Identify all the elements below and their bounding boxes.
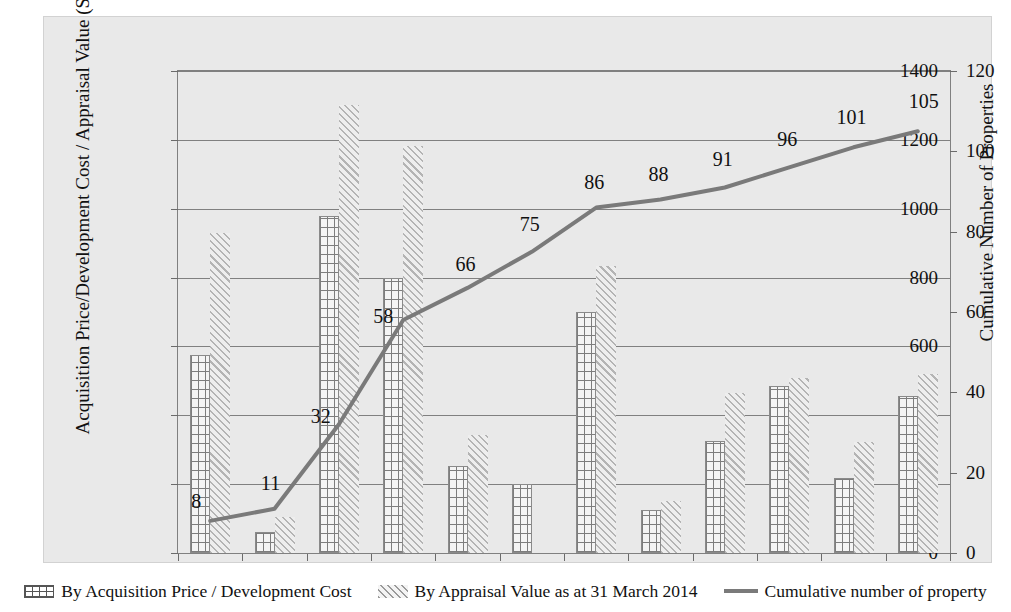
y-axis-tickmark-left [171,278,178,279]
x-axis-tickmark [821,554,822,561]
line-point-label: 96 [777,129,797,149]
y-axis-tick-label-right: 80 [966,222,985,241]
bar-appraisal-value [210,233,230,553]
y-axis-title-left: Acquisition Price/Development Cost / App… [73,5,92,435]
y-axis-tick-label-left: 1000 [848,199,938,218]
x-axis-tickmark [500,554,501,561]
y-axis-tickmark-right [950,232,957,233]
y-axis-tickmark-left [171,71,178,72]
x-axis-tickmark [886,554,887,561]
bar-appraisal-value [789,378,809,553]
y-axis-tick-label-left: 600 [848,336,938,355]
y-axis-tick-label-right: 120 [966,61,995,80]
line-point-label: 105 [909,91,939,111]
y-axis-tick-label-right: 100 [966,141,995,160]
x-axis-tickmark [950,554,951,561]
diagonal-hatch-swatch [378,585,408,598]
line-point-label: 8 [191,491,201,511]
plot-area: 0200400600800100012001400 02040608010012… [177,70,951,554]
line-point-label: 101 [837,107,867,127]
legend-item[interactable]: By Acquisition Price / Development Cost [24,581,351,602]
gridline [178,71,950,72]
x-axis-tickmark [564,554,565,561]
y-axis-tick-label-right: 0 [966,543,976,562]
y-axis-tickmark-left [171,140,178,141]
y-axis-tickmark-left [171,415,178,416]
bar-appraisal-value [918,374,938,553]
chart-screenshot: Acquisition Price/Development Cost / App… [0,0,1011,612]
x-axis-tickmark [435,554,436,561]
line-point-label: 32 [311,406,331,426]
y-axis-tick-label-right: 60 [966,302,985,321]
line-point-label: 66 [456,254,476,274]
bar-appraisal-value [725,393,745,553]
bar-acquisition-price [512,484,532,553]
bar-acquisition-price [834,478,854,553]
legend-item-label: By Appraisal Value as at 31 March 2014 [415,581,698,602]
grid-pattern-swatch [24,585,54,598]
y-axis-tick-label-right: 20 [966,463,985,482]
bar-appraisal-value [275,517,295,553]
bar-acquisition-price [448,466,468,553]
x-axis-tickmark [371,554,372,561]
y-axis-tickmark-right [950,312,957,313]
y-axis-tickmark-left [171,346,178,347]
bar-appraisal-value [854,442,874,553]
line-point-label: 88 [649,164,669,184]
x-axis-tickmark [178,554,179,561]
bar-appraisal-value [661,501,681,553]
legend-panel: By Acquisition Price / Development CostB… [0,570,1011,612]
bar-appraisal-value [596,266,616,553]
bar-acquisition-price [576,312,596,553]
x-axis-tickmark [242,554,243,561]
x-axis-tickmark [693,554,694,561]
bar-acquisition-price [641,510,661,553]
line-path [210,131,918,521]
legend-item[interactable]: Cumulative number of property [724,581,987,602]
chart-legend: By Acquisition Price / Development CostB… [0,570,1011,612]
y-axis-tick-label-left: 1400 [848,61,938,80]
legend-item[interactable]: By Appraisal Value as at 31 March 2014 [378,581,698,602]
line-point-label: 58 [373,306,393,326]
line-point-label: 86 [584,172,604,192]
bar-appraisal-value [468,435,488,553]
bar-appraisal-value [339,105,359,553]
legend-item-label: By Acquisition Price / Development Cost [61,581,351,602]
bar-acquisition-price [898,396,918,553]
line-point-label: 11 [261,473,280,493]
y-axis-tickmark-right [950,553,957,554]
legend-item-label: Cumulative number of property [765,581,987,602]
bar-acquisition-price [255,532,275,553]
gridline [178,140,950,141]
y-axis-tickmark-right [950,71,957,72]
gridline [178,346,950,347]
x-axis-tickmark [628,554,629,561]
gridline [178,278,950,279]
y-axis-tick-label-left: 1200 [848,130,938,149]
bar-acquisition-price [769,386,789,553]
x-axis-tickmark [307,554,308,561]
y-axis-tickmark-left [171,484,178,485]
bar-appraisal-value [403,146,423,553]
y-axis-tickmark-right [950,392,957,393]
bar-acquisition-price [319,216,339,553]
chart-panel: Acquisition Price/Development Cost / App… [43,16,992,563]
line-point-label: 75 [520,214,540,234]
y-axis-tick-label-left: 800 [848,268,938,287]
y-axis-tickmark-right [950,473,957,474]
y-axis-tickmark-left [171,209,178,210]
gridline [178,209,950,210]
line-swatch [724,589,758,593]
y-axis-tick-label-right: 40 [966,382,985,401]
x-axis-tickmark [757,554,758,561]
gridline [178,415,950,416]
bar-acquisition-price [705,441,725,553]
bar-acquisition-price [190,355,210,553]
line-point-label: 91 [713,149,733,169]
y-axis-tickmark-right [950,151,957,152]
y-axis-tickmark-left [171,553,178,554]
